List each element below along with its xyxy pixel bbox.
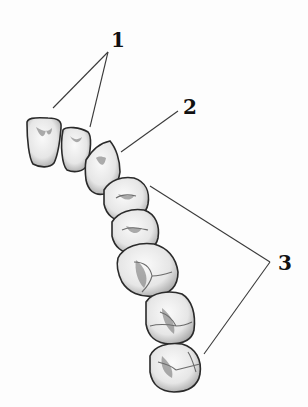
first-molar xyxy=(117,244,178,297)
leader-2 xyxy=(121,111,178,152)
leader-1-b xyxy=(90,52,108,127)
teeth-illustration xyxy=(0,0,308,407)
central-incisor xyxy=(27,118,61,167)
label-2: 2 xyxy=(183,97,197,117)
third-molar xyxy=(150,344,200,393)
second-molar xyxy=(146,292,195,344)
label-3: 3 xyxy=(278,253,292,273)
leader-3-b xyxy=(204,262,270,354)
leader-1-a xyxy=(53,52,108,108)
label-1: 1 xyxy=(111,30,125,50)
dental-arch-diagram: 1 2 3 xyxy=(0,0,308,407)
